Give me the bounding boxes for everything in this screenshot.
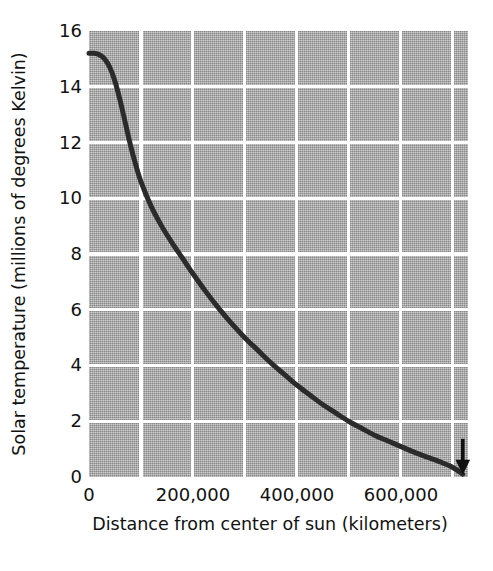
y-tick-label-12: 12 (40, 134, 82, 152)
y-axis-title: Solar temperature (millions of degrees K… (8, 52, 30, 455)
y-tick-label-8: 8 (40, 245, 82, 263)
x-axis-title: Distance from center of sun (kilometers) (60, 513, 480, 535)
x-tick-label-0: 0 (29, 486, 149, 504)
solar-temperature-chart: Solar temperature (millions of degrees K… (0, 0, 493, 571)
y-tick-label-4: 4 (40, 356, 82, 374)
y-tick-label-10: 10 (40, 189, 82, 207)
x-tick-label-200000: 200,000 (133, 486, 253, 504)
temperature-curve-layer (89, 31, 468, 477)
x-tick-label-600000: 600,000 (341, 486, 461, 504)
y-axis-title-container: Solar temperature (millions of degrees K… (0, 31, 38, 477)
plot-area (89, 31, 468, 477)
y-tick-label-16: 16 (40, 22, 82, 40)
temperature-curve (89, 53, 463, 474)
y-tick-label-14: 14 (40, 78, 82, 96)
y-tick-label-6: 6 (40, 301, 82, 319)
y-tick-label-2: 2 (40, 412, 82, 430)
y-tick-label-0: 0 (40, 468, 82, 486)
x-tick-label-400000: 400,000 (237, 486, 357, 504)
